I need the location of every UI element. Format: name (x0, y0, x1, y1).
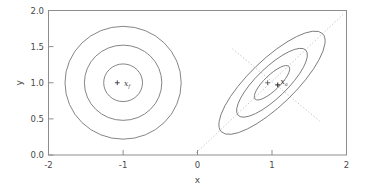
x-tick-label-0: -2 (44, 160, 52, 170)
y-tick-label-2: 1.0 (30, 78, 44, 88)
y-tick-label-0: 0.0 (30, 150, 44, 160)
x-tick-label-3: 1 (269, 160, 274, 170)
x-axis-title: x (195, 175, 201, 185)
y-axis-title: y (14, 79, 24, 85)
plot-svg: 0.0 0.5 1.0 1.5 2.0 -2 -1 0 1 2 x y xf (0, 0, 366, 190)
x-tick-label-1: -1 (119, 160, 127, 170)
marker-label-sub-right: a (285, 81, 288, 87)
plot-frame (49, 11, 347, 156)
figure-canvas: 0.0 0.5 1.0 1.5 2.0 -2 -1 0 1 2 x y xf (0, 0, 366, 190)
y-tick-label-3: 1.5 (30, 42, 44, 52)
x-tick-label-4: 2 (344, 160, 349, 170)
y-tick-label-4: 2.0 (30, 6, 44, 16)
x-tick-label-2: 0 (195, 160, 200, 170)
y-tick-label-1: 0.5 (30, 114, 44, 124)
